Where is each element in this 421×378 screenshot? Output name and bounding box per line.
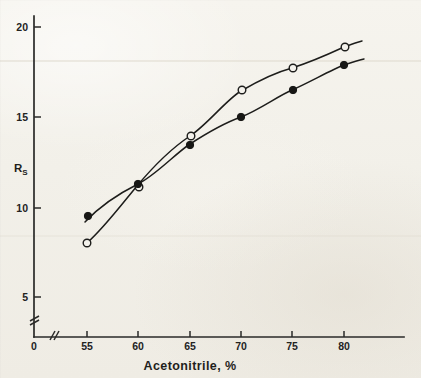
y-tick-label-20: 20 [16, 21, 28, 33]
x-tick-label-0: 0 [31, 340, 37, 352]
x-tick-labels: 0 55 60 65 70 75 80 [31, 340, 350, 352]
scan-artifacts [0, 61, 421, 236]
open-circle-markers [83, 43, 349, 247]
y-axis-ticks [34, 27, 41, 297]
data-point-open-65 [187, 132, 195, 140]
data-point-open-55 [83, 239, 91, 247]
data-point-filled-75 [289, 86, 296, 93]
data-point-open-80 [341, 43, 349, 51]
y-tick-label-10: 10 [16, 202, 28, 214]
x-tick-label-75: 75 [286, 340, 298, 352]
x-axis-ticks [87, 331, 344, 337]
data-point-open-70 [238, 86, 246, 94]
open-circle-series-curve [87, 41, 362, 243]
data-point-filled-65 [186, 141, 193, 148]
data-point-filled-70 [237, 113, 244, 120]
x-tick-label-60: 60 [132, 340, 144, 352]
data-point-filled-60 [134, 180, 141, 187]
data-point-filled-80 [340, 61, 347, 68]
y-tick-label-15: 15 [16, 111, 28, 123]
y-axis-title-subscript: S [22, 168, 28, 177]
x-tick-label-80: 80 [338, 340, 350, 352]
x-axis-break-icon [50, 331, 59, 340]
chart-figure: 20 15 10 5 0 55 60 65 70 75 80 RS Aceton… [0, 0, 421, 378]
data-point-filled-55 [84, 212, 91, 219]
filled-circle-markers [84, 61, 347, 219]
y-tick-label-5: 5 [22, 291, 28, 303]
chart-svg: 20 15 10 5 0 55 60 65 70 75 80 RS Aceton… [0, 0, 421, 378]
x-axis-title: Acetonitrile, % [144, 359, 237, 373]
data-point-open-75 [289, 64, 297, 72]
y-axis-title: RS [14, 162, 28, 177]
x-tick-label-55: 55 [81, 340, 93, 352]
x-tick-label-70: 70 [235, 340, 247, 352]
x-tick-label-65: 65 [184, 340, 196, 352]
